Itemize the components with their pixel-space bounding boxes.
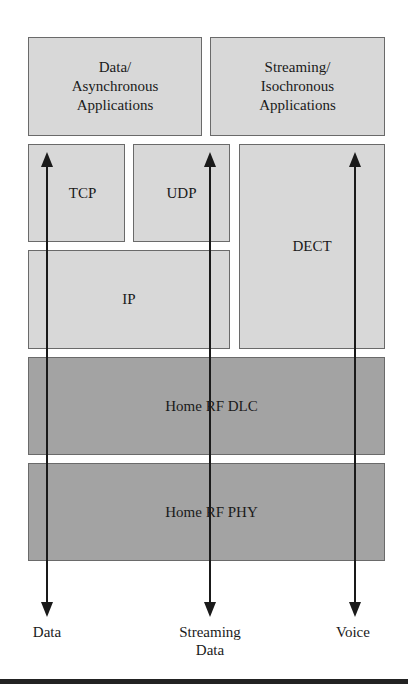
flow-label-line: Data <box>160 641 260 659</box>
bottom-rule-divider <box>0 679 408 684</box>
flow-label-line: Voice <box>323 623 383 641</box>
arrowhead-up-icon <box>41 152 53 167</box>
arrowhead-down-icon <box>41 602 53 617</box>
flow-label-line: Streaming <box>160 623 260 641</box>
streaming-data-flow-label: Streaming Data <box>160 623 260 659</box>
arrowhead-down-icon <box>349 602 361 617</box>
flow-arrows <box>0 0 408 690</box>
arrowhead-up-icon <box>349 152 361 167</box>
flow-label-line: Data <box>17 623 77 641</box>
data-flow-label: Data <box>17 623 77 641</box>
arrowhead-down-icon <box>204 602 216 617</box>
arrowhead-up-icon <box>204 152 216 167</box>
voice-flow-label: Voice <box>323 623 383 641</box>
